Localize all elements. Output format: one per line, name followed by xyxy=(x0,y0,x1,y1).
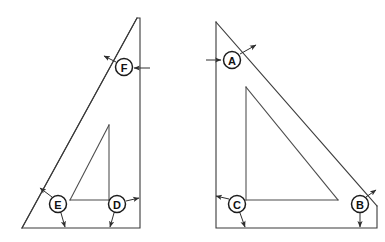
leader-b-upright xyxy=(366,190,376,197)
balloon-e[interactable]: E xyxy=(50,196,67,213)
leader-e-down xyxy=(61,213,65,227)
balloon-label-b: B xyxy=(356,199,364,211)
right-outer-hypotenuse xyxy=(216,22,377,206)
balloon-f[interactable]: F xyxy=(116,59,133,76)
left-inner-hypotenuse xyxy=(70,125,109,200)
balloon-label-c: C xyxy=(233,199,241,211)
leader-a-upright xyxy=(240,45,256,54)
right-inner-hypotenuse xyxy=(246,87,338,200)
balloon-b[interactable]: B xyxy=(352,196,369,213)
leader-c-upleft xyxy=(216,196,229,199)
balloon-c[interactable]: C xyxy=(229,196,246,213)
technical-drawing-canvas: F E D A C B xyxy=(0,0,385,242)
leader-c-down xyxy=(240,213,245,227)
leader-d-down xyxy=(110,213,114,227)
balloon-label-a: A xyxy=(228,55,236,67)
balloon-label-f: F xyxy=(121,62,128,74)
drawing-svg: F E D A C B xyxy=(0,0,385,242)
balloon-label-e: E xyxy=(54,199,61,211)
leader-d-upright xyxy=(126,198,139,201)
balloon-d[interactable]: D xyxy=(109,196,126,213)
balloon-label-d: D xyxy=(113,199,121,211)
balloon-a[interactable]: A xyxy=(224,52,241,69)
